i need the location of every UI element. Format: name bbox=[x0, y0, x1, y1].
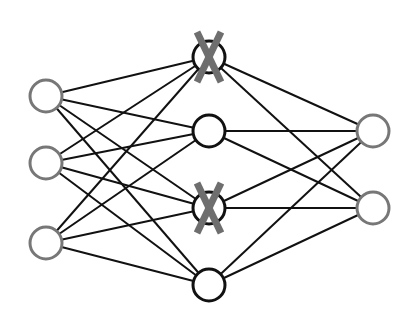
input-node-3 bbox=[30, 227, 62, 259]
output-node-1 bbox=[357, 115, 389, 147]
network-canvas bbox=[0, 0, 412, 320]
connection-edge bbox=[46, 243, 209, 285]
input-node-1 bbox=[30, 80, 62, 112]
connection-edge bbox=[209, 57, 373, 208]
connection-edge bbox=[46, 163, 209, 285]
neural-network-diagram bbox=[0, 0, 412, 320]
connection-edge bbox=[209, 208, 373, 285]
input-node-2 bbox=[30, 147, 62, 179]
neurons bbox=[30, 41, 389, 301]
hidden-node-4 bbox=[193, 269, 225, 301]
connections bbox=[46, 57, 373, 285]
connection-edge bbox=[209, 57, 373, 131]
hidden-node-2 bbox=[193, 115, 225, 147]
connection-edge bbox=[46, 163, 209, 208]
output-node-2 bbox=[357, 192, 389, 224]
connection-edge bbox=[46, 57, 209, 243]
connection-edge bbox=[46, 57, 209, 96]
